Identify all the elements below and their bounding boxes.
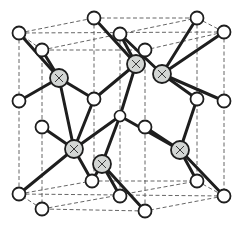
cell-edge [145, 196, 224, 211]
bond [120, 116, 180, 150]
white-atom [191, 175, 204, 188]
cell-edge [42, 209, 145, 211]
white-atom [218, 190, 231, 203]
bond [162, 32, 224, 74]
bond [19, 149, 74, 194]
white-atom [114, 28, 127, 41]
white-atom [86, 175, 99, 188]
white-atom [139, 205, 152, 218]
white-atom [88, 93, 101, 106]
white-atom [88, 12, 101, 25]
center-atom [115, 111, 126, 122]
crystal-structure-diagram [0, 0, 245, 232]
white-atom [36, 121, 49, 134]
white-atom [13, 95, 26, 108]
white-atom [191, 12, 204, 25]
bond [162, 18, 197, 74]
white-atom [36, 203, 49, 216]
bond [59, 78, 74, 149]
white-atom [114, 190, 127, 203]
white-atom [13, 188, 26, 201]
cell-edge [19, 181, 92, 194]
white-atom [139, 44, 152, 57]
white-atom [139, 121, 152, 134]
white-atom [218, 26, 231, 39]
white-atom [36, 44, 49, 57]
white-atom [218, 95, 231, 108]
cell-edge [19, 18, 94, 33]
white-atom [191, 93, 204, 106]
white-atom [13, 27, 26, 40]
